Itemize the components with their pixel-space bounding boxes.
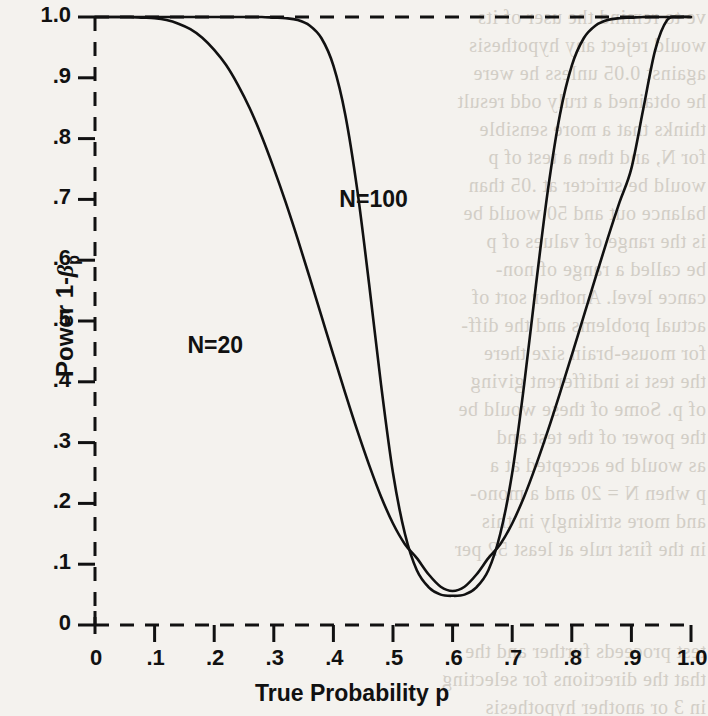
x-tick-label: .1: [141, 645, 171, 671]
y-tick-label: .7: [13, 184, 71, 210]
y-tick-label: .5: [13, 306, 71, 332]
x-tick-label: .7: [498, 645, 528, 671]
y-tick-label: .2: [13, 488, 71, 514]
x-tick-label: .5: [379, 645, 409, 671]
y-tick-label: 0: [13, 610, 71, 636]
x-tick-label: 1.0: [677, 645, 707, 671]
x-tick-label: .2: [200, 645, 230, 671]
series-label-n100: N=100: [339, 186, 407, 213]
y-tick-label: .4: [13, 367, 71, 393]
y-tick-label: .3: [13, 428, 71, 454]
power-curve-n20: [95, 17, 691, 591]
series-label-n20: N=20: [187, 332, 243, 359]
y-tick-label: .6: [13, 245, 71, 271]
y-tick-label: .1: [13, 549, 71, 575]
y-tick-label: .9: [13, 63, 71, 89]
x-tick-label: .3: [260, 645, 290, 671]
x-tick-label: .9: [617, 645, 647, 671]
power-curve-n100: [95, 17, 691, 596]
x-tick-label: .8: [558, 645, 588, 671]
x-axis-title: True Probability p: [255, 680, 449, 707]
x-tick-label: 0: [81, 645, 111, 671]
y-tick-label: .8: [13, 124, 71, 150]
y-tick-label: 1.0: [13, 2, 71, 28]
x-tick-label: .6: [439, 645, 469, 671]
x-tick-label: .4: [319, 645, 349, 671]
